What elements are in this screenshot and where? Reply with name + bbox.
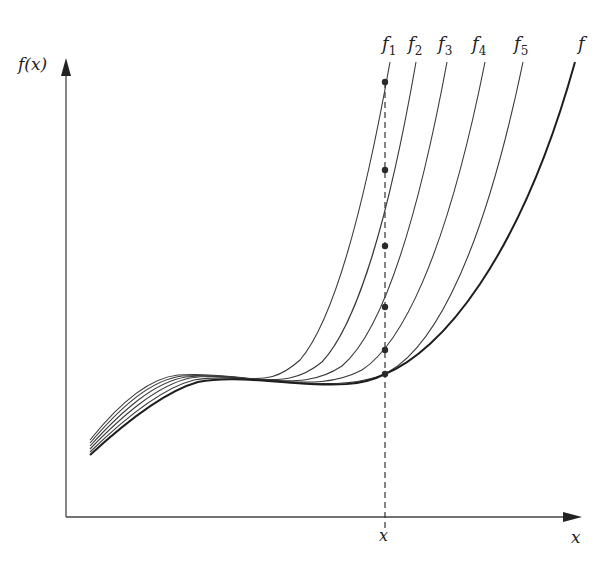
- x-axis-label: x: [571, 527, 581, 547]
- point-f4-at-x: [382, 304, 388, 310]
- point-f5-at-x: [382, 347, 388, 353]
- y-axis-label: f(x): [16, 54, 47, 74]
- point-f2-at-x: [382, 167, 388, 173]
- curve-f2: [90, 62, 416, 443]
- label-f2: f2: [406, 33, 422, 58]
- point-f-at-x: [382, 371, 388, 377]
- label-f: f: [576, 33, 588, 54]
- axes: [61, 58, 582, 522]
- point-f1-at-x: [382, 79, 388, 85]
- curve-f-limit: [90, 62, 575, 455]
- curve-f4: [90, 62, 485, 449]
- x-marker-label: x: [379, 526, 388, 545]
- convergence-diagram: f(x) x x f1 f2 f3 f4 f5 f: [0, 0, 616, 572]
- label-f4: f4: [470, 33, 487, 58]
- label-f3: f3: [436, 33, 452, 58]
- point-f3-at-x: [382, 243, 388, 249]
- label-f5: f5: [512, 33, 528, 58]
- function-curves: [90, 62, 575, 455]
- x-axis-arrow-icon: [563, 512, 582, 522]
- label-f1: f1: [380, 33, 396, 58]
- curve-labels: f1 f2 f3 f4 f5 f: [380, 33, 588, 58]
- y-axis-arrow-icon: [61, 58, 71, 76]
